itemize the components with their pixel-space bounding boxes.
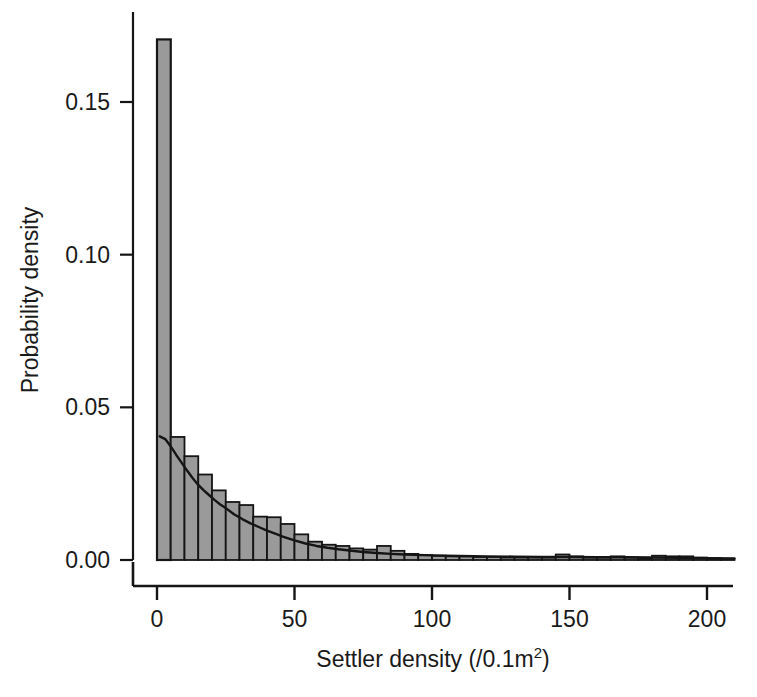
histogram-bar (295, 534, 309, 560)
settler-density-histogram-chart: 0.000.050.100.15 050100150200 Settler de… (0, 0, 757, 697)
y-axis-tick-label: 0.15 (65, 89, 110, 115)
histogram-bar (240, 505, 254, 560)
y-axis-tick-label: 0.00 (65, 547, 110, 573)
y-axis-tick-label: 0.10 (65, 242, 110, 268)
histogram-bar (253, 517, 267, 560)
histogram-bar (157, 39, 171, 560)
chart-background (0, 0, 757, 697)
x-axis-tick-label: 100 (413, 606, 451, 632)
histogram-figure: 0.000.050.100.15 050100150200 Settler de… (0, 0, 757, 697)
x-axis-tick-label: 200 (688, 606, 726, 632)
x-axis-tick-label: 0 (151, 606, 164, 632)
y-axis-title: Probability density (17, 206, 43, 393)
histogram-bar (281, 524, 295, 560)
x-axis-tick-label: 150 (550, 606, 588, 632)
y-axis-tick-label: 0.05 (65, 394, 110, 420)
histogram-bar (501, 558, 515, 560)
x-axis-tick-label: 50 (282, 606, 308, 632)
x-axis-title: Settler density (/0.1m2) (316, 644, 549, 672)
histogram-bar (267, 517, 281, 560)
